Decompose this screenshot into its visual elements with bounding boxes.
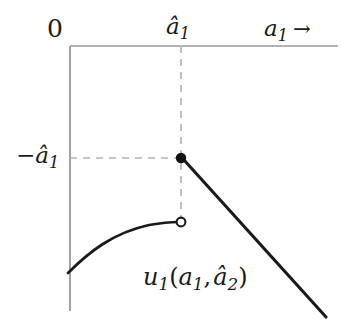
y-tick-ahat1-base: â (35, 144, 49, 167)
utility-function-figure: 0 â1 a1→ −â1 u1(a1,â2) (0, 0, 347, 327)
curve-label-open-paren: ( (169, 263, 178, 291)
descending-branch-line (184, 160, 326, 317)
x-tick-label-ahat1: â1 (166, 15, 190, 42)
curve-label-a-subscript: 1 (193, 274, 204, 294)
x-tick-ahat1-base: â (166, 15, 180, 38)
curve-label-close-paren: ) (238, 263, 247, 291)
right-arrow-icon: → (288, 16, 311, 41)
x-axis-label-subscript: 1 (278, 26, 288, 45)
open-circle-marker (177, 218, 186, 227)
curve-label-ahat-subscript: 2 (227, 274, 238, 294)
y-tick-label-neg-ahat1: −â1 (16, 144, 59, 171)
minus-sign: − (16, 142, 35, 168)
curve-label-u-subscript: 1 (158, 274, 169, 294)
y-tick-ahat1-subscript: 1 (49, 153, 59, 172)
filled-dot-marker (176, 153, 186, 163)
curve-label-comma: , (204, 263, 214, 291)
x-tick-ahat1-subscript: 1 (180, 24, 190, 43)
curve-label-a: a (179, 263, 193, 291)
curve-label-ahat: â (213, 265, 227, 289)
origin-label: 0 (47, 16, 63, 41)
x-axis-label-base: a (264, 15, 278, 41)
x-axis-label: a1→ (264, 17, 311, 44)
curve-label-u1: u1(a1,â2) (143, 265, 248, 293)
curve-label-u: u (143, 263, 158, 291)
